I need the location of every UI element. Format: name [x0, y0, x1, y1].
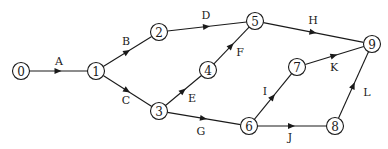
arrowhead-icon: [200, 115, 207, 121]
node-7: 7: [289, 59, 306, 76]
edge-j: J: [258, 123, 327, 144]
edge-i: I: [254, 74, 291, 120]
arrowhead-icon: [309, 29, 316, 35]
edge-e: E: [166, 75, 202, 105]
edge-label: E: [188, 92, 196, 105]
edge-label: L: [363, 86, 371, 99]
node-label: 3: [155, 105, 163, 119]
node-8: 8: [327, 118, 344, 135]
node-2: 2: [151, 24, 168, 41]
edge-label: J: [287, 131, 292, 144]
arrowhead-icon: [288, 123, 295, 129]
nodes-layer: 0123456789: [13, 13, 381, 135]
node-label: 5: [251, 15, 259, 29]
edge-f: F: [214, 27, 249, 64]
node-label: 1: [92, 65, 100, 79]
node-3: 3: [151, 103, 168, 120]
edge-k: K: [305, 46, 364, 73]
node-4: 4: [200, 62, 217, 79]
edge-h: H: [263, 14, 363, 43]
arrowhead-icon: [123, 50, 131, 56]
edge-l: L: [338, 52, 371, 119]
arrowhead-icon: [203, 24, 210, 30]
node-label: 7: [293, 61, 301, 75]
node-label: 9: [368, 38, 376, 52]
arrowhead-icon: [55, 68, 62, 74]
edge-d: D: [167, 9, 246, 32]
edge-label: A: [54, 55, 64, 68]
edges-layer: ABCDEFGHIJKL: [30, 9, 372, 144]
edge-label: K: [330, 61, 339, 74]
node-0: 0: [13, 63, 30, 80]
edge-c: C: [103, 76, 152, 107]
node-5: 5: [247, 13, 264, 30]
edge-label: F: [236, 46, 244, 59]
edge-label: B: [122, 35, 130, 48]
edge-label: H: [308, 14, 318, 27]
node-6: 6: [241, 118, 258, 135]
node-label: 0: [17, 65, 25, 79]
edge-label: C: [122, 94, 130, 107]
arrowhead-icon: [330, 54, 338, 60]
node-label: 8: [331, 120, 339, 134]
node-label: 2: [155, 26, 163, 40]
node-1: 1: [88, 63, 105, 80]
edge-a: A: [30, 55, 88, 75]
network-diagram: ABCDEFGHIJKL 0123456789: [0, 0, 388, 149]
node-9: 9: [364, 36, 381, 53]
edge-label: G: [197, 125, 206, 138]
edge-label: I: [263, 85, 267, 98]
edge-b: B: [103, 35, 152, 67]
arrowhead-icon: [123, 86, 131, 92]
edge-label: D: [202, 9, 211, 22]
edge-g: G: [167, 112, 240, 137]
node-label: 4: [204, 64, 212, 78]
node-label: 6: [245, 120, 253, 134]
